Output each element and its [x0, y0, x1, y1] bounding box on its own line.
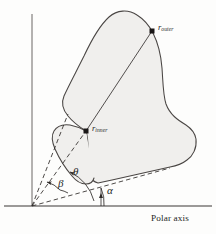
- r-inner-marker: [84, 129, 89, 134]
- arc-alpha-arrow: [99, 193, 103, 198]
- r-inner-subscript: inner: [95, 127, 107, 133]
- r-outer-marker: [150, 29, 155, 34]
- r-outer-label: router: [158, 23, 174, 32]
- r-outer-subscript: outer: [161, 26, 173, 32]
- theta-label: θ: [73, 166, 78, 177]
- polar-region-figure: router rinner α β θ Polar axis: [0, 0, 216, 234]
- beta-label: β: [58, 178, 63, 189]
- figure-canvas: [0, 0, 216, 234]
- r-inner-label: rinner: [92, 124, 108, 133]
- arc-beta-lower: [60, 190, 68, 193]
- polar-axis-label: Polar axis: [151, 214, 189, 223]
- alpha-label: α: [107, 185, 113, 196]
